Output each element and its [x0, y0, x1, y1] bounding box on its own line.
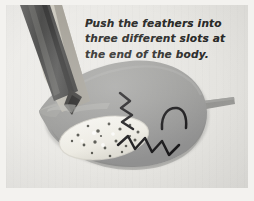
instruction-line-1: Push the feathers into	[85, 16, 245, 31]
pencil	[20, 5, 90, 115]
instruction-caption: Push the feathers into three different s…	[85, 16, 245, 62]
instruction-line-3: the end of the body.	[85, 47, 245, 62]
photo-canvas: Push the feathers into three different s…	[6, 5, 248, 188]
instruction-line-2: three different slots at	[85, 31, 245, 46]
photo-frame: Push the feathers into three different s…	[0, 0, 254, 201]
craft-instruction-image: Push the feathers into three different s…	[0, 0, 254, 201]
